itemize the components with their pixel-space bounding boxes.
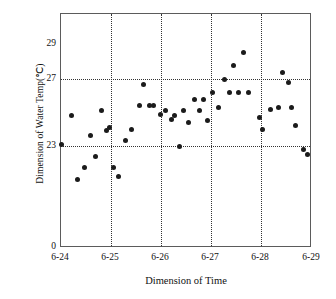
data-point <box>99 108 104 113</box>
plot-area <box>60 13 311 247</box>
x-tick-label-6-27: 6-27 <box>188 252 232 262</box>
x-tick-label-6-25: 6-25 <box>88 252 132 262</box>
gridline-x-6-25 <box>111 14 112 246</box>
data-point <box>59 142 64 147</box>
gridline-x-6-26 <box>161 14 162 246</box>
gridline-x-6-27 <box>211 14 212 246</box>
data-point <box>151 103 156 108</box>
data-point <box>222 77 227 82</box>
data-point <box>246 90 251 95</box>
x-axis-title: Dimension of Time <box>60 275 312 286</box>
data-point <box>201 97 206 102</box>
data-point <box>116 174 121 179</box>
data-point <box>293 123 298 128</box>
data-point <box>129 127 134 132</box>
data-point <box>210 90 215 95</box>
data-point <box>286 80 291 85</box>
data-point <box>231 63 236 68</box>
data-point <box>192 97 197 102</box>
gridline-y-23 <box>61 146 310 147</box>
data-point <box>280 70 285 75</box>
x-tick-label-6-24: 6-24 <box>38 252 82 262</box>
data-point <box>268 107 273 112</box>
data-point <box>205 118 210 123</box>
data-point <box>141 82 146 87</box>
gridline-y-27 <box>61 79 310 80</box>
y-tick-label-0: 0 <box>26 242 56 252</box>
data-point <box>123 138 128 143</box>
data-point <box>82 165 87 170</box>
x-tick-label-6-26: 6-26 <box>138 252 182 262</box>
x-tick-label-6-28: 6-28 <box>238 252 282 262</box>
data-point <box>137 103 142 108</box>
data-point <box>227 90 232 95</box>
data-point <box>260 127 265 132</box>
data-point <box>276 105 281 110</box>
x-tick-label-6-29: 6-29 <box>289 252 333 262</box>
data-point <box>257 115 262 120</box>
data-point <box>186 120 191 125</box>
data-point <box>216 105 221 110</box>
data-point <box>301 147 306 152</box>
data-point <box>289 105 294 110</box>
data-point <box>111 165 116 170</box>
y-tick-label-23: 23 <box>26 141 56 151</box>
data-point <box>88 133 93 138</box>
data-point <box>305 152 310 157</box>
data-point <box>177 144 182 149</box>
data-point <box>197 108 202 113</box>
data-point <box>75 177 80 182</box>
data-point <box>181 108 186 113</box>
x-axis-tick-labels: 6-24 6-25 6-26 6-27 6-28 6-29 <box>60 252 312 268</box>
data-point <box>69 113 74 118</box>
scatter-chart-figure: Dimension of Water Temp(℃) 29 27 23 0 6-… <box>0 0 336 299</box>
data-point <box>93 154 98 159</box>
data-point <box>158 112 163 117</box>
data-point <box>172 113 177 118</box>
data-point <box>241 50 246 55</box>
y-tick-label-27: 27 <box>26 74 56 84</box>
data-point <box>163 108 168 113</box>
y-tick-label-29: 29 <box>26 39 56 49</box>
data-point <box>236 90 241 95</box>
